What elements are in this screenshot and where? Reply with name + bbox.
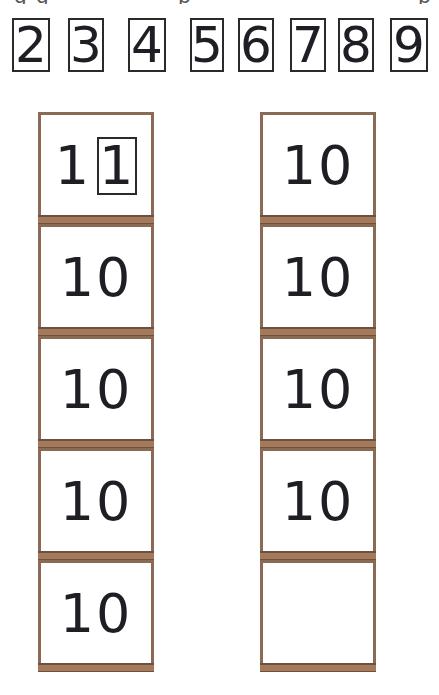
stack-slot[interactable]: 10 (38, 336, 154, 448)
slot-value: 1 1 (55, 134, 137, 197)
slot-value: 10 (60, 246, 133, 309)
cropped-glyph: g (36, 0, 49, 4)
empty-stack-slot[interactable] (260, 560, 376, 672)
cropped-glyph: p (178, 0, 191, 4)
digit-card-8[interactable]: 8 (338, 18, 374, 72)
slot-tens-digit: 1 (55, 134, 91, 197)
digit-card-4[interactable]: 4 (128, 18, 166, 72)
stack-slot[interactable]: 10 (260, 448, 376, 560)
slot-value: 10 (60, 358, 133, 421)
digit-card-5[interactable]: 5 (190, 18, 224, 72)
slot-value: 10 (282, 358, 355, 421)
left-stack-column: 1 1 10 10 10 10 (38, 112, 154, 672)
stack-slot[interactable]: 10 (38, 224, 154, 336)
slot-value: 10 (282, 246, 355, 309)
stack-slot[interactable]: 10 (38, 560, 154, 672)
digit-card-3[interactable]: 3 (68, 18, 104, 72)
digit-card-6[interactable]: 6 (238, 18, 274, 72)
digit-card-9[interactable]: 9 (390, 18, 428, 72)
cropped-glyph: p (418, 0, 431, 4)
digit-card-2[interactable]: 2 (12, 18, 50, 72)
digit-card-7[interactable]: 7 (290, 18, 326, 72)
stack-slot[interactable]: 10 (260, 112, 376, 224)
stack-slot[interactable]: 10 (38, 448, 154, 560)
slot-value: 10 (60, 582, 133, 645)
digit-card-row: 2 3 4 5 6 7 8 9 (0, 18, 439, 80)
right-stack-column: 10 10 10 10 (260, 112, 376, 672)
slot-value: 10 (60, 470, 133, 533)
stack-slot[interactable]: 10 (260, 336, 376, 448)
stack-slot[interactable]: 10 (260, 224, 376, 336)
slot-value: 10 (282, 470, 355, 533)
stack-slot[interactable]: 1 1 (38, 112, 154, 224)
cropped-glyph: g (14, 0, 27, 4)
placed-digit-card[interactable]: 1 (97, 137, 137, 195)
cropped-caption-text: g g p p (0, 0, 439, 4)
slot-value: 10 (282, 134, 355, 197)
